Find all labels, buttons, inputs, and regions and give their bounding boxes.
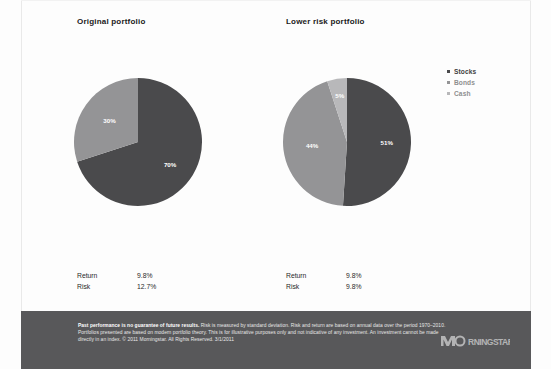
footer-disclaimer-text: Past performance is no guarantee of futu… xyxy=(78,322,448,344)
frame-right-rule xyxy=(530,0,531,311)
stat-row-return: Return 9.8% xyxy=(77,270,187,281)
pie-slice-label-stocks-lower-risk: 51% xyxy=(381,139,394,146)
chart-legend: Stocks Bonds Cash xyxy=(447,66,476,99)
pie-chart-lower-risk: 51% 44% 5% xyxy=(282,77,412,207)
stat-value-risk: 12.7% xyxy=(137,283,187,290)
pie-slice-label-stocks-original: 70% xyxy=(164,161,177,168)
stat-label-risk: Risk xyxy=(77,283,137,290)
stat-label-return: Return xyxy=(77,272,137,279)
morningstar-logo: RNINGSTAR xyxy=(440,333,510,348)
stats-table-lower-risk: Return 9.8% Risk 9.8% xyxy=(286,270,396,292)
pie-slice-label-cash-lower-risk: 5% xyxy=(335,92,344,99)
legend-item-stocks: Stocks xyxy=(447,66,476,77)
stat-value-risk: 9.8% xyxy=(346,283,396,290)
svg-text:RNINGSTAR: RNINGSTAR xyxy=(468,337,510,347)
pie-slice-label-bonds-lower-risk: 44% xyxy=(306,142,319,149)
stat-label-return: Return xyxy=(286,272,346,279)
stat-row-return: Return 9.8% xyxy=(286,270,396,281)
footer-disclaimer-lead: Past performance is no guarantee of futu… xyxy=(78,323,199,328)
slide-canvas: Original portfolio Lower risk portfolio … xyxy=(0,0,551,369)
chart-title-original: Original portfolio xyxy=(77,17,145,26)
legend-bullet-bonds xyxy=(447,81,450,84)
legend-bullet-cash xyxy=(447,92,450,95)
pie-slice-stocks-lower-risk xyxy=(343,78,411,206)
pie-slices-original xyxy=(74,78,202,206)
pie-svg-original: 70% 30% xyxy=(73,77,203,207)
pie-slice-label-bonds-original: 30% xyxy=(103,117,116,124)
legend-label-bonds: Bonds xyxy=(454,79,475,86)
pie-svg-lower-risk: 51% 44% 5% xyxy=(282,77,412,207)
legend-label-cash: Cash xyxy=(454,90,471,97)
stat-value-return: 9.8% xyxy=(346,272,396,279)
legend-label-stocks: Stocks xyxy=(454,68,476,75)
stat-value-return: 9.8% xyxy=(137,272,187,279)
frame-left-rule xyxy=(21,0,22,311)
stat-label-risk: Risk xyxy=(286,283,346,290)
legend-item-bonds: Bonds xyxy=(447,77,476,88)
stats-table-original: Return 9.8% Risk 12.7% xyxy=(77,270,187,292)
legend-bullet-stocks xyxy=(447,70,450,73)
frame-top-rule xyxy=(21,0,531,1)
chart-title-lower-risk: Lower risk portfolio xyxy=(286,17,365,26)
stat-row-risk: Risk 9.8% xyxy=(286,281,396,292)
footer-disclaimer-bar: Past performance is no guarantee of futu… xyxy=(21,311,531,369)
legend-item-cash: Cash xyxy=(447,88,476,99)
morningstar-logo-mark: RNINGSTAR xyxy=(440,333,510,348)
stat-row-risk: Risk 12.7% xyxy=(77,281,187,292)
pie-chart-original: 70% 30% xyxy=(73,77,203,207)
